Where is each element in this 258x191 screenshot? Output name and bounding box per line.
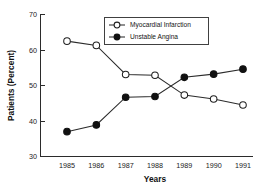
data-point-unstable-angina xyxy=(93,122,100,129)
x-tick-label-1986: 1986 xyxy=(88,161,104,170)
line-chart: 70 60 50 40 30 1985 1986 1987 1988 1989 … xyxy=(0,0,258,191)
data-point-unstable-angina xyxy=(181,74,188,81)
y-tick-label-30: 30 xyxy=(29,152,37,161)
data-point-unstable-angina xyxy=(64,128,71,135)
legend-label-myocardial-infarction: Myocardial Infarction xyxy=(130,21,191,29)
x-tick-label-1987: 1987 xyxy=(118,161,134,170)
open-circle-icon xyxy=(114,22,120,28)
data-point-myocardial-infarction xyxy=(181,92,188,99)
data-point-myocardial-infarction xyxy=(210,96,217,103)
x-tick-label-1989: 1989 xyxy=(176,161,192,170)
x-tick-label-1991: 1991 xyxy=(235,161,251,170)
data-point-unstable-angina xyxy=(122,94,129,101)
y-tick-label-60: 60 xyxy=(29,46,37,55)
data-point-myocardial-infarction xyxy=(152,72,159,79)
y-tick-label-50: 50 xyxy=(29,81,37,90)
data-point-myocardial-infarction xyxy=(240,102,247,109)
data-point-unstable-angina xyxy=(152,93,159,100)
legend-label-unstable-angina: Unstable Angina xyxy=(130,33,178,41)
x-tick-label-1988: 1988 xyxy=(147,161,163,170)
y-tick-label-70: 70 xyxy=(29,10,37,19)
data-point-myocardial-infarction xyxy=(93,42,100,49)
y-axis-title: Patients (Percent) xyxy=(6,50,16,121)
filled-circle-icon xyxy=(114,34,120,40)
chart-legend: Myocardial Infarction Unstable Angina xyxy=(105,18,209,45)
data-point-myocardial-infarction xyxy=(122,71,129,78)
data-point-unstable-angina xyxy=(240,66,247,73)
y-tick-label-40: 40 xyxy=(29,117,37,126)
chart-figure: 70 60 50 40 30 1985 1986 1987 1988 1989 … xyxy=(0,0,258,191)
data-point-myocardial-infarction xyxy=(64,38,71,45)
data-point-unstable-angina xyxy=(210,71,217,78)
x-tick-label-1985: 1985 xyxy=(59,161,75,170)
x-axis-title: Years xyxy=(144,174,167,184)
x-tick-label-1990: 1990 xyxy=(206,161,222,170)
